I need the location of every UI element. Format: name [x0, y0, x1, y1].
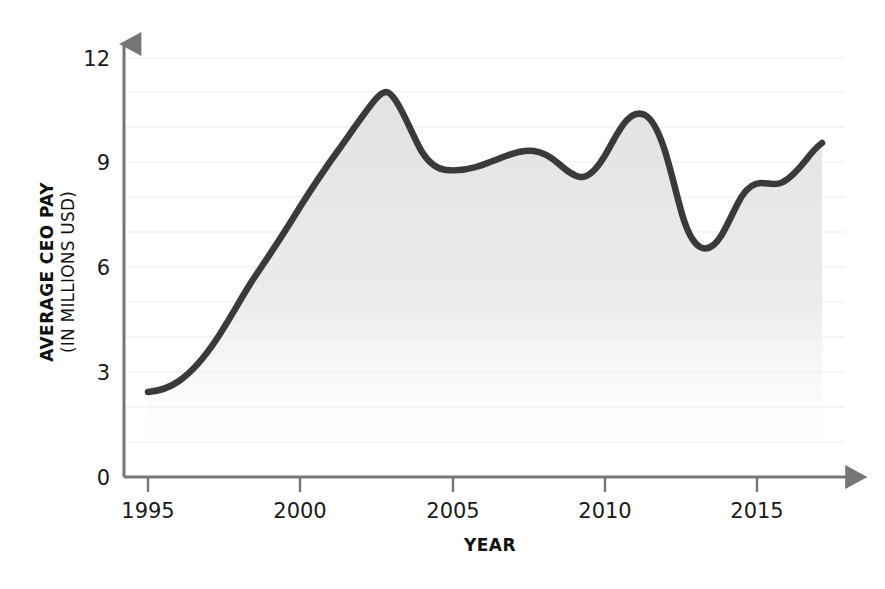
- x-tick-label-2010: 2010: [578, 499, 631, 523]
- x-tick-label-2000: 2000: [273, 499, 326, 523]
- y-tick-label-9: 9: [97, 151, 110, 175]
- x-tick-label-1995: 1995: [121, 499, 174, 523]
- y-axis-title: AVERAGE CEO PAY: [37, 182, 57, 362]
- x-tick-label-2015: 2015: [730, 499, 783, 523]
- x-axis-title: YEAR: [463, 535, 516, 555]
- y-tick-label-12: 12: [83, 47, 110, 71]
- y-tick-label-3: 3: [97, 361, 110, 385]
- chart-svg: 0 3 6 9 12 1995 2000 2005 2010 2015 YEAR…: [0, 0, 885, 589]
- y-axis-subtitle: (IN MILLIONS USD): [58, 191, 78, 353]
- x-tick-label-2005: 2005: [426, 499, 479, 523]
- y-tick-label-6: 6: [97, 256, 110, 280]
- ceo-pay-chart: 0 3 6 9 12 1995 2000 2005 2010 2015 YEAR…: [0, 0, 885, 589]
- y-tick-label-0: 0: [97, 466, 110, 490]
